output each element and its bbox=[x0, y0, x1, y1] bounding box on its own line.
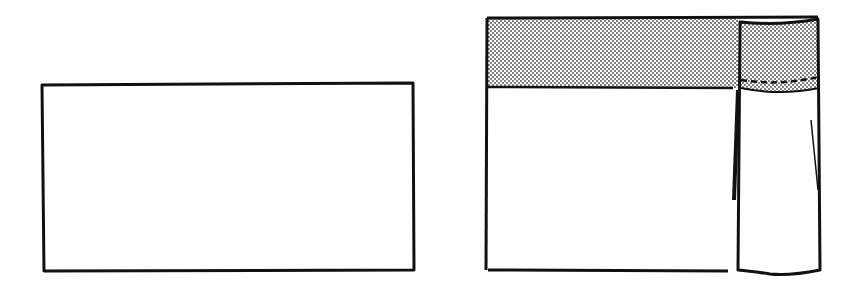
band-edge-line bbox=[488, 87, 733, 88]
folded-fabric-figure bbox=[486, 17, 820, 275]
shaded-top-band bbox=[487, 18, 738, 88]
drape-line bbox=[811, 120, 818, 190]
diagram-canvas bbox=[0, 0, 865, 297]
plain-fabric-rectangle bbox=[42, 83, 414, 271]
